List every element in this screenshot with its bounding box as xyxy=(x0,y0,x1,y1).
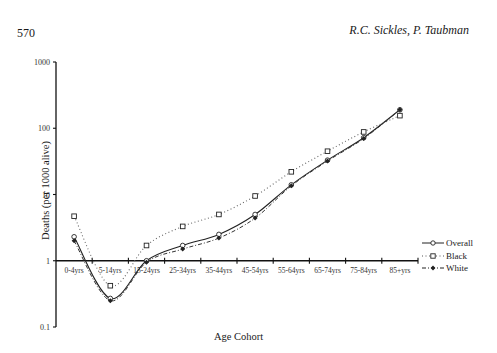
legend-item-overall: Overall xyxy=(422,237,473,250)
x-tick-label: 45-54yrs xyxy=(242,266,269,275)
y-tick-label: 1 xyxy=(46,257,50,266)
chart-legend: Overall Black White xyxy=(422,237,473,275)
data-point-square-icon xyxy=(108,283,113,288)
x-tick-label: 55-64yrs xyxy=(278,266,305,275)
y-axis-label: Deaths (per 1000 alive) xyxy=(40,136,51,246)
x-tick-label: 65-74yrs xyxy=(314,266,341,275)
x-axis-label: Age Cohort xyxy=(214,331,263,342)
x-tick-label: 0-4yrs xyxy=(65,266,84,275)
data-point-square-icon xyxy=(217,212,222,217)
y-tick-label: 0.1 xyxy=(40,323,50,332)
data-point-square-icon xyxy=(325,149,330,154)
x-tick-label: 35-44yrs xyxy=(206,266,233,275)
legend-label: Overall xyxy=(446,237,473,250)
legend-item-black: Black xyxy=(422,250,473,263)
line-chart: 0.111010010000-4yrs5-14yrs15-24yrs25-34y… xyxy=(0,0,497,353)
solid-line-circle-icon xyxy=(422,238,444,248)
dashdot-line-diamond-icon xyxy=(422,263,444,273)
y-tick-label: 1000 xyxy=(34,58,50,67)
x-tick-label: 5-14yrs xyxy=(99,266,122,275)
legend-label: Black xyxy=(446,250,467,263)
legend-item-white: White xyxy=(422,262,473,275)
data-point-square-icon xyxy=(398,113,403,118)
data-point-square-icon xyxy=(361,130,366,135)
x-tick-label: 85+yrs xyxy=(389,266,410,275)
x-tick-label: 75-84yrs xyxy=(350,266,377,275)
data-point-square-icon xyxy=(180,224,185,229)
legend-label: White xyxy=(446,262,468,275)
y-tick-label: 100 xyxy=(38,124,50,133)
data-point-square-icon xyxy=(253,194,258,199)
x-tick-label: 25-34yrs xyxy=(169,266,196,275)
data-point-square-icon xyxy=(72,214,77,219)
data-point-square-icon xyxy=(144,243,149,248)
data-point-square-icon xyxy=(289,170,294,175)
dotted-line-square-icon xyxy=(422,251,444,261)
